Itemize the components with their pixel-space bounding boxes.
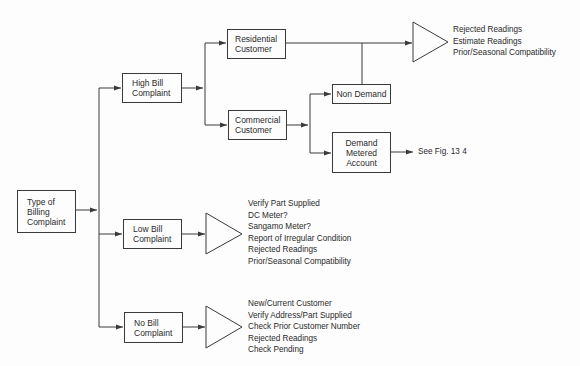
low-bill-checks-triangle-icon [206,213,242,254]
box-label: Type of [27,197,75,207]
box-label: Residential [235,34,285,44]
box-label: Customer [235,44,285,54]
check-item: Check Prior Customer Number [248,321,360,333]
check-item: Rejected Readings [453,24,556,36]
check-item: Estimate Readings [453,36,556,48]
box-label: Commercial [235,115,286,125]
check-item: New/Current Customer [248,298,360,310]
demand-reference-label: See Fig. 13 4 [418,147,467,156]
low-bill-checks-list: Verify Part Supplied DC Meter? Sangamo M… [248,198,351,268]
box-label: Low Bill [133,224,181,234]
box-label: Metered [346,148,377,158]
check-item: Prior/Seasonal Compatibility [248,256,351,268]
non-demand-box: Non Demand [332,84,391,104]
no-bill-checks-list: New/Current Customer Verify Address/Part… [248,298,360,356]
check-item: Rejected Readings [248,244,351,256]
check-item: Prior/Seasonal Compatibility [453,47,556,59]
box-label: Complaint [134,328,182,338]
type-of-billing-complaint-box: Type of Billing Complaint [17,190,76,233]
no-bill-complaint-box: No Bill Complaint [124,312,183,343]
no-bill-checks-triangle-icon [206,306,242,348]
box-label: Demand [345,138,377,148]
box-label: Billing [27,207,75,217]
check-item: Report of Irregular Condition [248,233,351,245]
check-item: DC Meter? [248,210,351,222]
box-label: Customer [235,125,286,135]
box-label: Complaint [132,88,181,98]
check-item: Sangamo Meter? [248,221,351,233]
check-item: Rejected Readings [248,333,360,345]
high-bill-checks-list: Rejected Readings Estimate Readings Prio… [453,24,556,59]
box-label: Complaint [133,234,181,244]
check-item: Check Pending [248,344,360,356]
box-label: Account [346,158,377,168]
check-item: Verify Address/Part Supplied [248,310,360,322]
box-label: High Bill [132,78,181,88]
residential-customer-box: Residential Customer [227,29,286,59]
check-item: Verify Part Supplied [248,198,351,210]
demand-metered-account-box: Demand Metered Account [332,132,391,173]
box-label: Complaint [27,217,75,227]
low-bill-complaint-box: Low Bill Complaint [123,219,182,249]
high-bill-checks-triangle-icon [413,22,448,62]
billing-complaint-flowchart: Type of Billing Complaint High Bill Comp… [0,0,580,366]
high-bill-complaint-box: High Bill Complaint [122,73,182,103]
commercial-customer-box: Commercial Customer [228,110,287,140]
box-label: No Bill [134,318,182,328]
box-label: Non Demand [336,89,386,99]
